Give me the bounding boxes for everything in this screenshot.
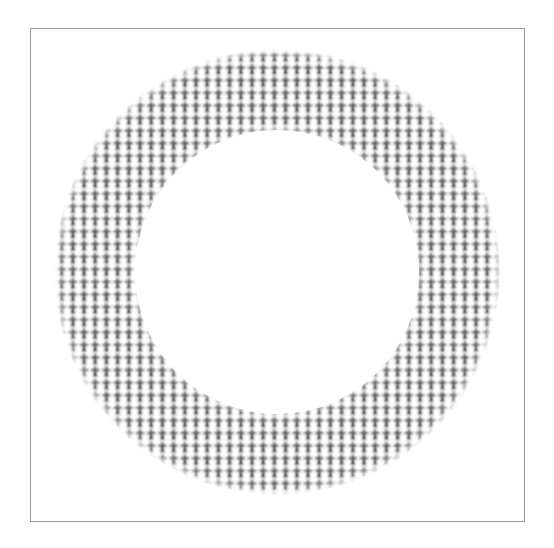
figure-canvas xyxy=(0,0,554,548)
figure-frame xyxy=(30,28,525,522)
